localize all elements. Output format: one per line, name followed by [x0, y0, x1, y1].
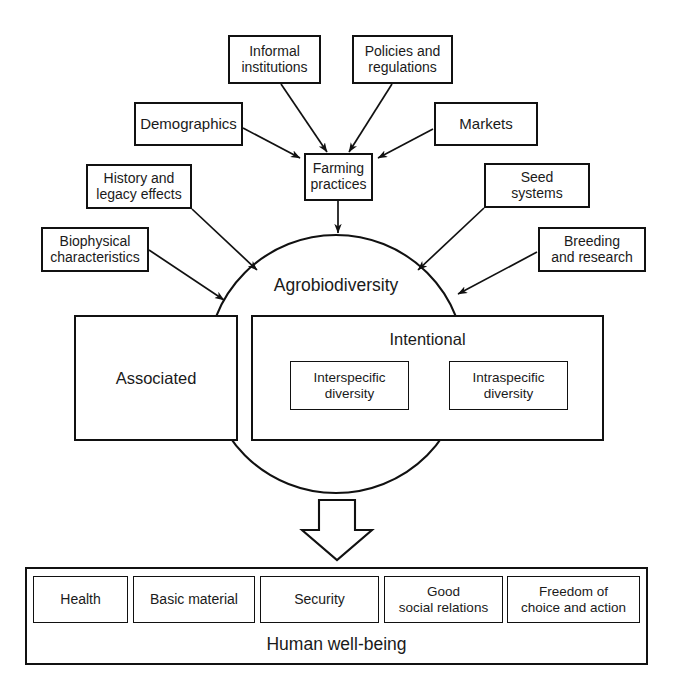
- driver-box-demographics[interactable]: Demographics: [134, 102, 243, 146]
- arrow-biophysical-to-agrobiodiversity: [149, 250, 224, 300]
- outcome-box-basic-material[interactable]: Basic material: [133, 576, 255, 623]
- outcome-arrow-icon: [302, 500, 372, 560]
- outcome-label-basic-material: Basic material: [150, 592, 238, 608]
- arrow-policies-to-farming: [349, 84, 392, 152]
- compartment-box-associated[interactable]: Associated: [74, 315, 238, 441]
- subtype-box-interspecific-diversity[interactable]: Interspecific diversity: [290, 361, 409, 410]
- subtype-label-intraspecific-diversity: Intraspecific diversity: [472, 370, 544, 400]
- driver-box-policies-and-regulations[interactable]: Policies and regulations: [352, 35, 453, 84]
- driver-label-seed-systems: Seed systems: [511, 170, 562, 201]
- driver-label-informal-institutions: Informal institutions: [241, 44, 307, 75]
- agrobiodiversity-label: Agrobiodiversity: [236, 272, 436, 298]
- subtype-label-interspecific-diversity: Interspecific diversity: [313, 370, 385, 400]
- driver-box-informal-institutions[interactable]: Informal institutions: [228, 35, 321, 84]
- driver-box-biophysical-characteristics[interactable]: Biophysical characteristics: [41, 227, 149, 272]
- driver-label-demographics: Demographics: [140, 116, 237, 133]
- outcome-label-health: Health: [60, 592, 100, 608]
- hub-box-farming-practices[interactable]: Farming practices: [304, 153, 373, 201]
- driver-box-breeding-and-research[interactable]: Breeding and research: [538, 227, 646, 272]
- compartment-label-intentional: Intentional: [251, 327, 604, 351]
- outcome-box-freedom-of-choice-and-action[interactable]: Freedom of choice and action: [507, 576, 640, 623]
- arrow-demographics-to-farming: [243, 128, 300, 158]
- arrow-history-to-agrobiodiversity: [192, 209, 257, 270]
- arrow-informal-institutions-to-farming: [281, 84, 327, 152]
- driver-label-history-and-legacy-effects: History and legacy effects: [96, 171, 181, 202]
- outcome-box-good-social-relations[interactable]: Good social relations: [384, 576, 503, 623]
- outcome-box-security[interactable]: Security: [260, 576, 379, 623]
- outcome-box-health[interactable]: Health: [33, 576, 128, 623]
- subtype-box-intraspecific-diversity[interactable]: Intraspecific diversity: [449, 361, 568, 410]
- driver-label-markets: Markets: [459, 116, 512, 133]
- driver-box-seed-systems[interactable]: Seed systems: [484, 163, 590, 208]
- arrow-breeding-to-agrobiodiversity: [458, 252, 537, 294]
- driver-label-biophysical-characteristics: Biophysical characteristics: [50, 234, 139, 265]
- arrow-seed-systems-to-agrobiodiversity: [418, 208, 484, 270]
- compartment-label-associated: Associated: [116, 369, 197, 387]
- hub-label-farming-practices: Farming practices: [310, 161, 366, 192]
- outcome-label-security: Security: [294, 592, 345, 608]
- outcome-label-good-social-relations: Good social relations: [399, 584, 488, 614]
- driver-label-policies-and-regulations: Policies and regulations: [365, 44, 441, 75]
- outcome-label-freedom-of-choice-and-action: Freedom of choice and action: [521, 584, 626, 614]
- arrow-markets-to-farming: [378, 129, 433, 158]
- driver-label-breeding-and-research: Breeding and research: [551, 234, 633, 265]
- outcome-title-human-well-being: Human well-being: [25, 630, 648, 658]
- diagram-canvas: Informal institutions Policies and regul…: [0, 0, 674, 692]
- driver-box-markets[interactable]: Markets: [434, 102, 538, 146]
- driver-box-history-and-legacy-effects[interactable]: History and legacy effects: [86, 164, 192, 209]
